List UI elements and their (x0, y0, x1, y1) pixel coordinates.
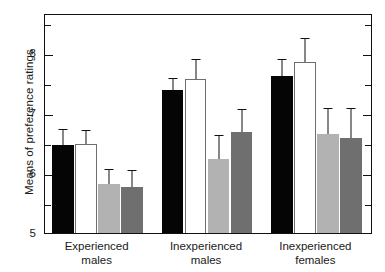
x-axis-group-label-3: Inexperiencedfemales (255, 240, 375, 267)
error-bar-g3-s1 (271, 15, 293, 233)
error-bar-cap (214, 135, 223, 136)
error-bar-stem (109, 169, 110, 183)
group-label-line-1: Experienced (37, 240, 157, 254)
error-bar-cap (191, 59, 200, 60)
y-axis-tick-label-5: 5 (14, 228, 36, 240)
group-label-line-2: males (146, 254, 266, 268)
y-axis-tick-6-5 (45, 145, 51, 146)
error-bar-stem (63, 129, 64, 145)
error-bar-stem (350, 108, 351, 138)
y-axis-tick-label-8: 8 (14, 48, 36, 60)
error-bar-stem (281, 59, 282, 76)
error-bar-cap (128, 170, 137, 171)
y-axis-tick-6-5 (365, 145, 371, 146)
error-bar-stem (327, 108, 328, 134)
error-bar-stem (132, 170, 133, 187)
error-bar-g2-s2 (185, 15, 207, 233)
y-axis-tick-8-5 (365, 25, 371, 26)
y-axis-tick-5-5 (45, 205, 51, 206)
plot-frame (44, 14, 372, 234)
error-bar-cap (323, 108, 332, 109)
error-bar-cap (346, 108, 355, 109)
error-bar-cap (168, 78, 177, 79)
group-label-line-2: females (255, 254, 375, 268)
error-bar-g3-s2 (294, 15, 316, 233)
error-bar-g2-s1 (162, 15, 184, 233)
group-label-line-2: males (37, 254, 157, 268)
y-axis-tick-5-5 (365, 205, 371, 206)
plot-area (45, 15, 371, 233)
error-bar-g1-s1 (52, 15, 74, 233)
y-axis-tick-8 (363, 55, 371, 56)
error-bar-g2-s4 (231, 15, 253, 233)
y-axis-tick-label-6: 6 (14, 168, 36, 180)
error-bar-g1-s2 (75, 15, 97, 233)
error-bar-cap (105, 169, 114, 170)
y-axis-tick-6 (363, 175, 371, 176)
x-axis-group-label-1: Experiencedmales (37, 240, 157, 267)
error-bar-g1-s4 (121, 15, 143, 233)
error-bar-cap (82, 130, 91, 131)
y-axis-tick-8-5 (45, 25, 51, 26)
preference-ratings-bar-chart: Means of preference ratings 5678 Experie… (0, 0, 385, 272)
error-bar-cap (59, 129, 68, 130)
error-bar-cap (237, 109, 246, 110)
error-bar-cap (277, 59, 286, 60)
error-bar-stem (241, 109, 242, 132)
error-bar-stem (195, 59, 196, 78)
error-bar-g3-s4 (340, 15, 362, 233)
error-bar-g2-s3 (208, 15, 230, 233)
group-label-line-1: Inexperienced (255, 240, 375, 254)
y-axis-tick-7 (363, 115, 371, 116)
group-label-line-1: Inexperienced (146, 240, 266, 254)
error-bar-stem (172, 78, 173, 90)
y-axis-tick-label-7: 7 (14, 108, 36, 120)
error-bar-stem (304, 38, 305, 62)
error-bar-cap (300, 38, 309, 39)
error-bar-g3-s3 (317, 15, 339, 233)
error-bar-stem (86, 130, 87, 144)
error-bar-stem (218, 135, 219, 159)
y-axis-tick-7-5 (45, 85, 51, 86)
error-bar-g1-s3 (98, 15, 120, 233)
x-axis-group-label-2: Inexperiencedmales (146, 240, 266, 267)
y-axis-tick-7-5 (365, 85, 371, 86)
